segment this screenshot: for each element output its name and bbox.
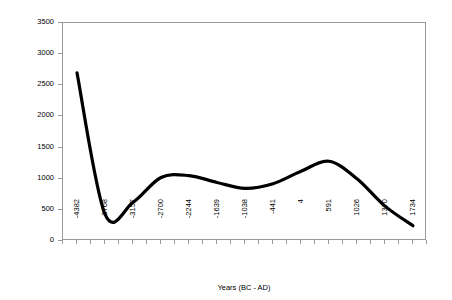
x-axis-tick-label: -1639 [212,199,221,245]
y-axis-tick-label: 3000 [0,49,54,57]
x-axis-tick-mark [412,240,413,244]
y-axis-tick-label: 2000 [0,111,54,119]
x-axis-title: Years (BC - AD) [62,283,426,292]
y-axis-tick-label: 1500 [0,143,54,151]
x-axis-tick-label: -1038 [240,199,249,245]
x-axis-minor-tick-mark [230,240,231,244]
x-axis-minor-tick-mark [146,240,147,244]
x-axis-tick-label: -2244 [184,199,193,245]
x-axis-tick-mark [160,240,161,244]
x-axis-tick-mark [328,240,329,244]
x-axis-minor-tick-mark [286,240,287,244]
x-axis-tick-label: 1026 [352,199,361,245]
x-axis-tick-mark [104,240,105,244]
x-axis-tick-label: -3157 [128,199,137,245]
y-axis-tick-label: 3500 [0,18,54,26]
x-axis-minor-tick-mark [426,240,427,244]
x-axis-minor-tick-mark [90,240,91,244]
x-axis-minor-tick-mark [258,240,259,244]
x-axis-tick-label: -3768 [100,199,109,245]
x-axis-tick-label: 1734 [408,199,417,245]
x-axis-tick-mark [356,240,357,244]
x-axis-tick-mark [272,240,273,244]
x-axis-tick-label: 4 [296,199,305,245]
x-axis-tick-mark [76,240,77,244]
x-axis-tick-mark [300,240,301,244]
x-axis-minor-tick-mark [118,240,119,244]
x-axis-title-label: Years (BC - AD) [217,283,270,292]
x-axis-minor-tick-mark [174,240,175,244]
y-axis-tick-label: 1000 [0,174,54,182]
x-axis-tick-label: -441 [268,199,277,245]
y-axis-tick-label: 2500 [0,80,54,88]
y-axis-tick-label: 0 [0,236,54,244]
pollen-count-line-chart: Arboreal Pollen Count 050010001500200025… [0,0,452,300]
y-axis-tick-label: 500 [0,205,54,213]
x-axis-minor-tick-mark [202,240,203,244]
x-axis-minor-tick-mark [314,240,315,244]
x-axis-minor-tick-mark [370,240,371,244]
x-axis-tick-mark [244,240,245,244]
x-axis-tick-label: 1370 [380,199,389,245]
x-axis-tick-mark [216,240,217,244]
x-axis-minor-tick-mark [62,240,63,244]
x-axis-tick-label: -2700 [156,199,165,245]
x-axis-tick-mark [188,240,189,244]
x-axis-minor-tick-mark [398,240,399,244]
x-axis-tick-label: -4382 [72,199,81,245]
x-axis-tick-label: 591 [324,199,333,245]
x-axis-tick-mark [132,240,133,244]
x-axis-tick-mark [384,240,385,244]
x-axis-minor-tick-mark [342,240,343,244]
